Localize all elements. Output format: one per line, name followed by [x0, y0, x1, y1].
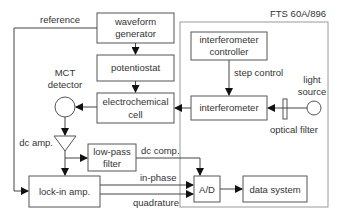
- potentiostat-block: potentiostat: [97, 55, 174, 81]
- light-source: light source: [298, 74, 327, 115]
- data-system-label: data system: [249, 184, 300, 195]
- low-pass-filter-block: low-pass filter: [88, 144, 136, 171]
- lock-in-amp-block: lock-in amp.: [29, 176, 100, 207]
- dc-amp-label: dc amp.: [19, 137, 53, 148]
- interferometer-controller-label-2: controller: [209, 46, 248, 57]
- detector-icon: [55, 97, 75, 117]
- dc-amp: dc amp.: [19, 136, 76, 151]
- dc-comp-label: dc comp.: [141, 145, 180, 156]
- interferometer-label: interferometer: [199, 102, 258, 113]
- light-source-label-1: light: [303, 74, 321, 85]
- electrochemical-cell-label-1: electrochemical: [103, 96, 169, 107]
- waveform-generator-label-2: generator: [115, 28, 156, 39]
- optical-filter-label: optical filter: [270, 124, 318, 135]
- step-control-label: step control: [234, 67, 283, 78]
- low-pass-filter-label-2: filter: [103, 158, 121, 169]
- mct-detector: MCT detector: [48, 67, 82, 117]
- potentiostat-label: potentiostat: [111, 62, 160, 73]
- electrochemical-cell-label-2: cell: [128, 109, 142, 120]
- mct-detector-label-1: MCT: [55, 67, 76, 78]
- low-pass-filter-label-1: low-pass: [93, 146, 131, 157]
- light-source-label-2: source: [298, 86, 327, 97]
- ad-converter-label: A/D: [199, 184, 215, 195]
- interferometer-controller-block: interferometer controller: [191, 32, 267, 60]
- waveform-generator-label-1: waveform: [114, 16, 156, 27]
- quadrature-label: quadrature: [133, 197, 179, 208]
- electrochemical-cell-block: electrochemical cell: [97, 93, 174, 123]
- mct-detector-label-2: detector: [48, 79, 82, 90]
- block-diagram: FTS 60A/896 waveform generator potentios…: [0, 0, 338, 215]
- light-source-icon: [307, 101, 321, 115]
- waveform-generator-block: waveform generator: [97, 13, 174, 43]
- ad-converter-block: A/D: [194, 176, 220, 202]
- reference-label: reference: [40, 14, 80, 25]
- data-system-block: data system: [243, 176, 307, 202]
- interferometer-controller-label-1: interferometer: [199, 34, 258, 45]
- amplifier-icon: [54, 136, 76, 151]
- interferometer-block: interferometer: [191, 96, 267, 120]
- fts-enclosure-label: FTS 60A/896: [270, 8, 326, 19]
- lock-in-amp-label: lock-in amp.: [39, 186, 90, 197]
- optical-filter-icon: [283, 99, 287, 119]
- in-phase-label: in-phase: [140, 172, 176, 183]
